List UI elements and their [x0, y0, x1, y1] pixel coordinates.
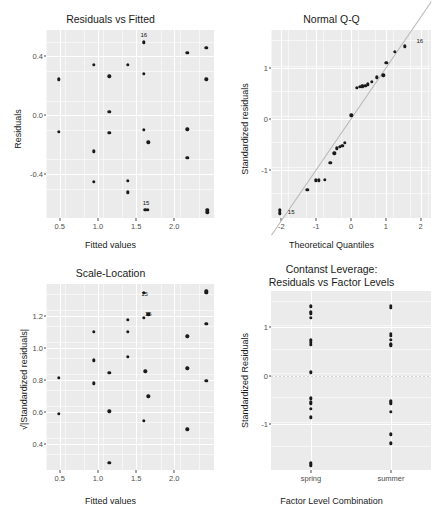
data-point: [108, 131, 111, 134]
gridline-minor-horizontal: [46, 71, 214, 72]
gridline-minor-vertical: [323, 30, 324, 218]
data-point: [126, 191, 129, 194]
gridline-minor-vertical: [84, 30, 85, 218]
data-point: [333, 152, 336, 155]
x-tick-mark: [136, 218, 137, 221]
x-axis-tick-label: 1.5: [131, 474, 141, 483]
plot-area-residuals-vs-fitted: 0.40.0-0.40.51.01.52.01615: [46, 30, 214, 218]
x-axis-tick-label: summer: [377, 474, 404, 483]
data-point: [366, 83, 369, 86]
y-axis-tick-label: 0.4: [33, 440, 43, 449]
point-label: 15: [288, 209, 295, 215]
data-point: [126, 179, 129, 182]
gridline-vertical: [136, 30, 137, 218]
gridline-vertical: [316, 30, 317, 218]
y-axis-tick-label: -0.4: [30, 169, 43, 178]
data-point: [343, 141, 346, 144]
y-tick-mark: [269, 424, 272, 425]
data-point: [305, 188, 308, 191]
data-point: [389, 410, 392, 413]
data-point: [309, 343, 312, 346]
data-point: [389, 334, 392, 337]
data-point: [389, 306, 392, 309]
x-axis-tick-label: spring: [301, 474, 321, 483]
data-point: [92, 180, 95, 183]
gridline-horizontal: [46, 444, 214, 445]
gridline-minor-vertical: [103, 30, 104, 218]
gridline-minor-horizontal: [46, 342, 214, 343]
gridline-minor-vertical: [65, 284, 66, 470]
data-point: [309, 407, 312, 410]
gridline-minor-horizontal: [46, 294, 214, 295]
gridline-vertical: [174, 284, 175, 470]
panel-constant-leverage: Contanst Leverage: Residuals vs Factor L…: [221, 255, 442, 511]
gridline-minor-horizontal: [271, 446, 431, 447]
y-axis-tick-label: 0.6: [33, 408, 43, 417]
x-axis-label: Fitted values: [0, 496, 221, 506]
panel-title-line-1: Contanst Leverage:: [221, 263, 442, 276]
y-axis-label: Residuals: [13, 94, 23, 164]
data-point: [323, 178, 326, 181]
y-axis-label: Standardized Residuals: [240, 336, 250, 428]
y-axis-tick-label: -1: [261, 420, 268, 429]
gridline-horizontal: [46, 412, 214, 413]
panel-scale-location: Scale-Location 1.21.00.80.60.40.51.01.52…: [0, 255, 221, 511]
x-tick-mark: [97, 470, 98, 473]
gridline-minor-vertical: [428, 30, 429, 218]
gridline-minor-horizontal: [271, 397, 431, 398]
gridline-minor-horizontal: [271, 373, 431, 374]
gridline-minor-horizontal: [46, 130, 214, 131]
gridline-minor-horizontal: [46, 159, 214, 160]
data-point: [389, 338, 392, 341]
data-point: [108, 461, 111, 464]
y-axis-tick-label: 0: [264, 114, 268, 123]
gridline-vertical: [386, 30, 387, 218]
panel-residuals-vs-fitted: Residuals vs Fitted 0.40.0-0.40.51.01.52…: [0, 0, 221, 255]
gridline-vertical: [60, 30, 61, 218]
gridline-minor-vertical: [161, 30, 162, 218]
gridline-horizontal: [271, 327, 431, 328]
y-axis-label: Standardized residuals: [240, 83, 250, 175]
x-tick-mark: [174, 470, 175, 473]
data-point: [205, 46, 208, 49]
point-label: 16: [145, 311, 152, 317]
gridline-vertical: [421, 30, 422, 218]
gridline-minor-vertical: [180, 284, 181, 470]
panel-title: Scale-Location: [0, 267, 221, 280]
gridline-minor-horizontal: [46, 189, 214, 190]
gridline-minor-vertical: [180, 30, 181, 218]
data-point: [389, 402, 392, 405]
x-axis-tick-label: 2.0: [169, 222, 179, 231]
gridline-minor-horizontal: [46, 310, 214, 311]
point-label: 16: [140, 32, 147, 38]
x-tick-mark: [59, 470, 60, 473]
x-tick-mark: [391, 470, 392, 473]
gridline-minor-vertical: [141, 30, 142, 218]
gridline-horizontal: [46, 316, 214, 317]
plot-area-normal-qq: 10-1-2-10121615: [271, 30, 431, 218]
data-point: [146, 208, 149, 211]
y-axis-label: √|Standardized residuals|: [19, 334, 29, 430]
y-axis-tick-label: 1.0: [33, 344, 43, 353]
x-axis-tick-label: 0.5: [55, 474, 65, 483]
zero-reference-line: [271, 376, 431, 377]
data-point: [382, 74, 385, 77]
data-point: [186, 334, 189, 337]
panel-title: Residuals vs Fitted: [0, 13, 221, 26]
x-tick-mark: [420, 218, 421, 221]
data-point: [205, 210, 208, 213]
point-label: 15: [143, 200, 150, 206]
gridline-vertical: [98, 30, 99, 218]
panel-normal-qq: Normal Q-Q 10-1-2-10121615 Theoretical Q…: [221, 0, 442, 255]
gridline-minor-vertical: [410, 30, 411, 218]
x-axis-tick-label: 1.5: [131, 222, 141, 231]
gridline-minor-vertical: [141, 284, 142, 470]
gridline-horizontal: [46, 380, 214, 381]
y-axis-tick-label: 0.8: [33, 376, 43, 385]
y-axis-tick-label: 0.0: [33, 111, 43, 120]
gridline-minor-vertical: [46, 30, 47, 218]
gridline-minor-vertical: [46, 284, 47, 470]
panel-title: Normal Q-Q: [221, 13, 442, 26]
x-tick-mark: [97, 218, 98, 221]
gridline-horizontal: [46, 115, 214, 116]
